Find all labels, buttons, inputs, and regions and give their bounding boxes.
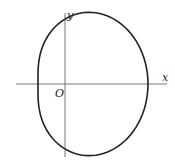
diagram-canvas: x y O — [0, 0, 175, 160]
x-axis-label: x — [162, 71, 169, 84]
y-axis-label: y — [66, 9, 74, 22]
origin-label: O — [55, 87, 64, 100]
